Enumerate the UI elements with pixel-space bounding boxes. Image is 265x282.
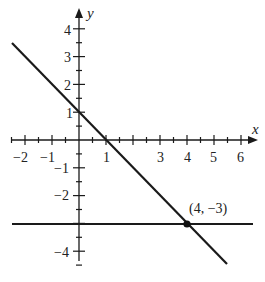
x-tick-label: 4 — [184, 150, 191, 165]
y-tick-label: 2 — [64, 78, 71, 93]
y-tick-label: −1 — [54, 161, 69, 176]
x-tick-label: 6 — [237, 150, 244, 165]
y-tick-label: 1 — [66, 106, 73, 121]
x-tick-label: −1 — [40, 150, 55, 165]
intersection-point — [183, 220, 190, 227]
x-tick-label: −2 — [13, 150, 28, 165]
y-axis-label: y — [85, 5, 94, 21]
y-axis-arrow-icon — [75, 8, 83, 18]
x-tick-label: 5 — [210, 150, 217, 165]
y-tick-label: 4 — [64, 23, 71, 38]
x-tick-label: 3 — [157, 150, 164, 165]
y-tick-label: −2 — [54, 188, 69, 203]
x-axis-arrow-icon — [248, 136, 258, 144]
x-axis-label: x — [251, 121, 259, 137]
point-annotation: (4, −3) — [189, 201, 228, 217]
x-tick-label: 1 — [103, 150, 110, 165]
coordinate-plane: x y −2 −1 1 3 4 5 6 4 3 2 1 −1 −2 −4 (4,… — [0, 0, 265, 282]
y-tick-label: −4 — [54, 245, 69, 260]
y-tick-label: 3 — [64, 50, 71, 65]
